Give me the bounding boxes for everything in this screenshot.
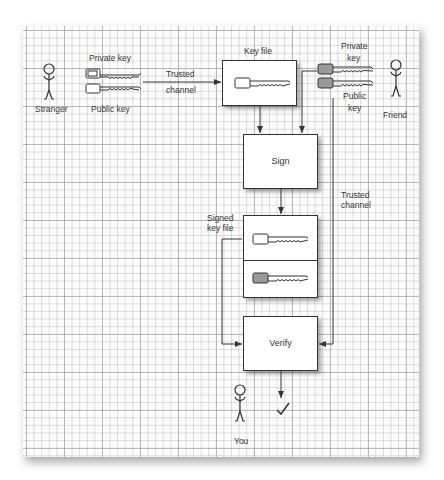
diagram-lines xyxy=(0,0,444,480)
signed-key-file-line2: key file xyxy=(207,223,233,234)
stranger-private-key-icon xyxy=(86,69,141,79)
key-file-key-icon xyxy=(235,78,290,88)
signed-file-key-icon xyxy=(253,234,308,244)
stranger-label: Stranger xyxy=(35,104,68,115)
stranger-figure-icon xyxy=(44,64,54,99)
trusted-channel-right-line2: channel xyxy=(341,200,371,211)
friend-private-key-line2: key xyxy=(347,53,360,64)
you-figure-icon xyxy=(235,385,245,421)
signed-to-verify-arrow xyxy=(222,239,242,344)
friend-private-key-icon xyxy=(318,64,373,74)
private-key-to-sign-arrow xyxy=(302,71,317,133)
stranger-private-key-label: Private key xyxy=(89,53,131,64)
friend-private-key-line1: Private xyxy=(341,41,367,52)
friend-figure-icon xyxy=(391,60,401,96)
friend-public-key-line2: key xyxy=(348,103,361,114)
key-file-label: Key file xyxy=(244,46,272,57)
signed-file-signature-key-icon xyxy=(253,273,308,283)
stranger-public-key-label: Public key xyxy=(91,104,130,115)
diagram-canvas: Sign Verify xyxy=(0,0,444,480)
friend-public-key-line1: Public xyxy=(343,91,366,102)
public-key-to-verify-arrow xyxy=(319,98,333,344)
checkmark-icon xyxy=(277,403,289,414)
you-label: You xyxy=(234,436,248,447)
friend-label: Friend xyxy=(383,110,407,121)
trusted-channel-top-line2: channel xyxy=(166,85,196,96)
stranger-public-key-icon xyxy=(86,84,141,93)
trusted-channel-top-line1: Trusted xyxy=(166,69,195,80)
friend-public-key-icon xyxy=(318,78,373,88)
